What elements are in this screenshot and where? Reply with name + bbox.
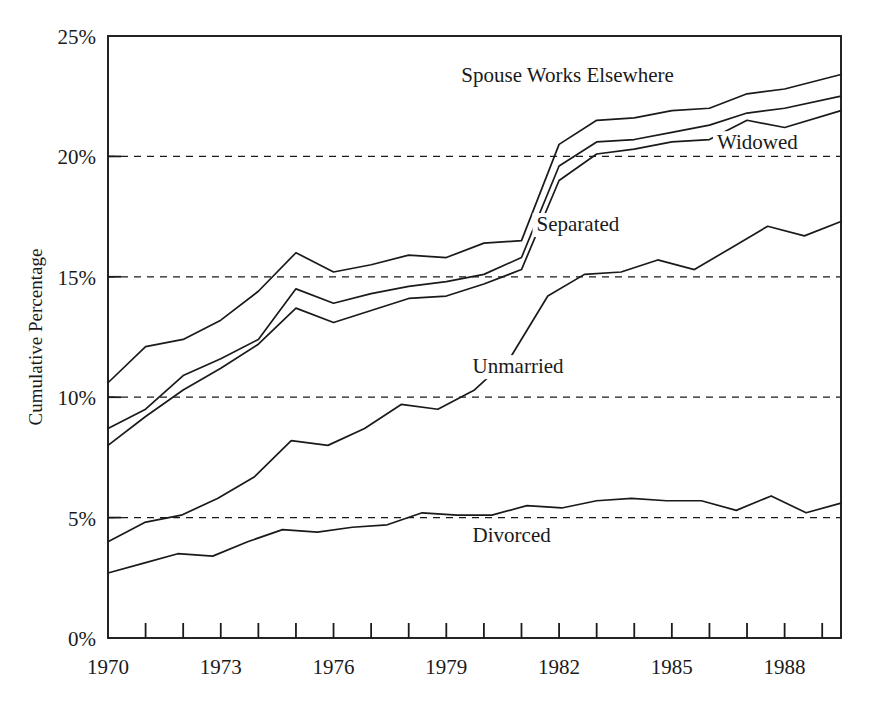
- y-tick-label-20%: 20%: [58, 145, 97, 169]
- y-axis-title: Cumulative Percentage: [25, 249, 46, 426]
- x-tick-label-1970: 1970: [87, 655, 129, 679]
- x-tick-label-1988: 1988: [764, 655, 806, 679]
- y-tick-label-15%: 15%: [58, 266, 97, 290]
- series-label-text: Unmarried: [473, 354, 564, 378]
- series-label-divorced: Divorced: [469, 523, 560, 548]
- chart-background: [0, 0, 869, 703]
- x-tick-label-1973: 1973: [200, 655, 242, 679]
- series-label-unmarried: Unmarried: [469, 354, 571, 379]
- y-tick-label-10%: 10%: [58, 386, 97, 410]
- series-label-spouse-works-elsewhere: Spouse Works Elsewhere: [457, 63, 694, 88]
- series-label-text: Spouse Works Elsewhere: [461, 63, 674, 87]
- x-tick-label-1976: 1976: [313, 655, 355, 679]
- x-tick-label-1985: 1985: [651, 655, 693, 679]
- y-tick-label-0%: 0%: [68, 627, 96, 651]
- series-label-text: Separated: [537, 212, 620, 236]
- series-label-text: Widowed: [717, 130, 798, 154]
- x-tick-label-1982: 1982: [538, 655, 580, 679]
- series-label-separated: Separated: [533, 212, 635, 237]
- x-tick-label-1979: 1979: [425, 655, 467, 679]
- y-tick-label-25%: 25%: [58, 25, 97, 49]
- series-label-widowed: Widowed: [713, 130, 798, 155]
- series-label-text: Divorced: [473, 523, 552, 547]
- y-tick-label-5%: 5%: [68, 507, 96, 531]
- chart-figure: 0%5%10%15%20%25% 19701973197619791982198…: [0, 0, 869, 703]
- chart-canvas: 0%5%10%15%20%25% 19701973197619791982198…: [0, 0, 869, 703]
